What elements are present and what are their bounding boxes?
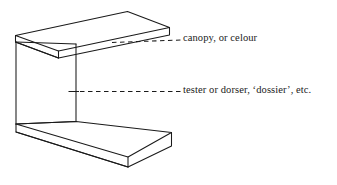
bed-canopy-diagram: canopy, or celour tester or dorser, ‘dos… — [0, 0, 337, 185]
canopy-leader-line — [112, 40, 181, 43]
canopy-panel — [16, 12, 170, 59]
tester-panel — [16, 42, 76, 124]
bed-base — [16, 122, 172, 168]
label-canopy: canopy, or celour — [183, 33, 257, 44]
label-tester: tester or dorser, ‘dossier’, etc. — [183, 85, 311, 96]
